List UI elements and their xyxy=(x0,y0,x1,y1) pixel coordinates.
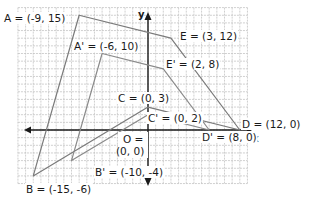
origin-label: O = xyxy=(123,133,143,145)
x-axis-arrow-left-icon xyxy=(24,127,31,134)
point-label-b: B = (-15, -6) xyxy=(26,183,91,195)
point-label-a-prime: A' = (-6, 10) xyxy=(74,40,138,52)
point-label-c: C = (0, 3) xyxy=(118,92,169,104)
y-axis-arrow-icon xyxy=(145,12,152,20)
origin-coords-label: (0, 0) xyxy=(116,145,144,157)
y-axis-label: y xyxy=(138,9,145,20)
point-label-c-prime: C' = (0, 2) xyxy=(148,112,202,124)
coordinate-plane: xy A = (-9, 15)B = (-15, -6)C = (0, 3)D … xyxy=(0,0,310,200)
point-label-e-prime: E' = (2, 8) xyxy=(166,58,219,70)
point-label-a: A = (-9, 15) xyxy=(4,12,65,24)
point-label-d-prime: D' = (8, 0) xyxy=(202,131,257,143)
y-axis-arrow-down-icon xyxy=(145,178,152,186)
point-label-b-prime: B' = (-10, -4) xyxy=(95,166,163,178)
point-label-e: E = (3, 12) xyxy=(180,30,237,42)
point-label-d: D = (12, 0) xyxy=(242,118,300,130)
